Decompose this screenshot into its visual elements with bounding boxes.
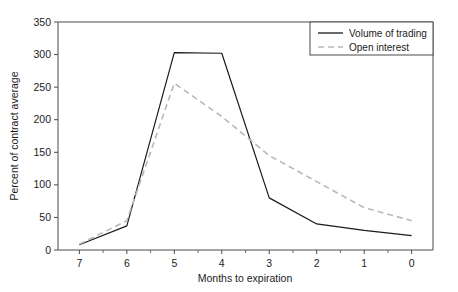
data-series-layer — [79, 53, 411, 245]
y-tick-label: 100 — [33, 178, 51, 190]
line-chart: 050100150200250300350 76543210 Percent o… — [0, 0, 458, 292]
plot-frame — [58, 22, 433, 250]
x-tick-label: 0 — [409, 257, 415, 269]
y-tick-label: 250 — [33, 81, 51, 93]
y-tick-label: 350 — [33, 16, 51, 28]
chart-legend: Volume of tradingOpen interest — [310, 22, 433, 55]
legend-label-0: Volume of trading — [349, 28, 427, 39]
series-line-0 — [79, 53, 411, 245]
chart-figure: 050100150200250300350 76543210 Percent o… — [0, 0, 458, 292]
x-tick-label: 1 — [361, 257, 367, 269]
x-tick-label: 2 — [314, 257, 320, 269]
x-tick-label: 7 — [76, 257, 82, 269]
x-axis-title: Months to expiration — [198, 272, 293, 284]
series-line-1 — [79, 83, 411, 244]
x-tick-label: 3 — [266, 257, 272, 269]
y-axis-ticks: 050100150200250300350 — [33, 16, 58, 256]
x-tick-label: 4 — [219, 257, 225, 269]
x-tick-label: 5 — [171, 257, 177, 269]
y-tick-label: 150 — [33, 146, 51, 158]
y-tick-label: 300 — [33, 48, 51, 60]
y-tick-label: 0 — [45, 244, 51, 256]
y-axis-title: Percent of contract average — [8, 71, 20, 200]
legend-label-1: Open interest — [349, 42, 409, 53]
y-tick-label: 50 — [39, 211, 51, 223]
x-tick-label: 6 — [124, 257, 130, 269]
y-tick-label: 200 — [33, 113, 51, 125]
